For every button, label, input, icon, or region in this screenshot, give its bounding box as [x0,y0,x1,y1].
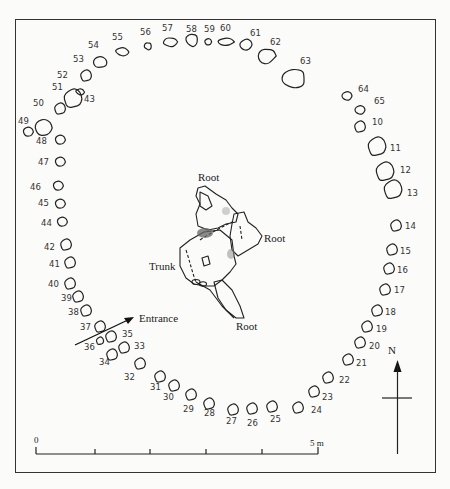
stone-label-48: 48 [36,136,47,146]
tree-trunk-feature [180,186,262,318]
stone-label-62: 62 [270,37,281,47]
stone-label-54: 54 [88,40,99,50]
stone-12 [376,162,394,181]
stone-label-47: 47 [38,157,49,167]
stone-label-56: 56 [140,27,151,37]
stone-25 [267,401,278,412]
stone-64 [342,92,352,101]
stone-label-10: 10 [372,117,383,127]
stone-label-31: 31 [150,382,161,392]
stone-label-27: 27 [226,416,237,426]
stone-label-60: 60 [220,23,231,33]
stone-37 [95,321,106,332]
stone-33 [119,342,130,353]
stone-label-20: 20 [369,341,380,351]
stone-52 [64,89,82,107]
shaded-area [222,207,230,215]
stone-label-65: 65 [374,96,385,106]
stone-13 [384,180,402,199]
stone-44 [57,217,67,226]
stone-62 [258,49,276,63]
stone-label-35: 35 [122,329,133,339]
stone-label-41: 41 [49,259,60,269]
stone-22 [323,372,334,383]
stone-59 [205,39,212,45]
stone-label-26: 26 [247,418,258,428]
stone-14 [391,220,402,231]
stone-35 [106,331,117,342]
stone-19 [362,321,373,332]
stone-27 [228,404,239,415]
stone-label-13: 13 [407,188,418,198]
stone-label-46: 46 [30,182,41,192]
stone-53 [81,70,92,81]
label-root-right: Root [264,232,285,244]
stone-54 [94,57,107,68]
stone-label-44: 44 [41,218,52,228]
stone-label-23: 23 [322,392,333,402]
stone-10 [355,121,366,132]
stone-48 [55,135,65,144]
stone-circle [23,34,401,415]
shaded-area [197,228,213,238]
stone-51 [55,103,66,114]
stone-label-51: 51 [52,82,63,92]
stone-36 [96,337,103,344]
stone-23 [309,386,320,397]
stone-20 [355,337,366,348]
stone-label-16: 16 [397,265,408,275]
stone-label-61: 61 [250,28,261,38]
label-entrance: Entrance [139,312,178,324]
stone-label-21: 21 [356,358,367,368]
site-plan: 5455565758596061626353525143504948474645… [0,0,450,489]
stone-50 [35,120,52,136]
stone-49 [23,127,33,136]
stone-label-18: 18 [385,307,396,317]
stone-label-25: 25 [270,414,281,424]
stone-label-17: 17 [394,285,405,295]
stone-65 [355,106,365,115]
stone-label-53: 53 [73,54,84,64]
stone-40 [65,278,76,289]
stone-label-64: 64 [358,84,369,94]
stone-label-28: 28 [204,408,215,418]
scale-bar [36,447,318,454]
stone-label-55: 55 [112,32,123,42]
stone-label-58: 58 [186,24,197,34]
stone-label-11: 11 [390,143,401,153]
stone-55 [116,48,129,56]
stone-label-40: 40 [48,279,59,289]
stone-label-19: 19 [376,324,387,334]
stone-61 [240,39,252,50]
stone-41 [65,257,76,268]
stone-label-34: 34 [99,357,110,367]
stone-label-38: 38 [68,307,79,317]
north-arrow: N [382,344,412,454]
stone-label-57: 57 [162,23,173,33]
stone-21 [343,354,354,365]
label-trunk: Trunk [149,260,176,272]
stone-number-labels: 5455565758596061626353525143504948474645… [18,23,418,428]
stone-24 [293,402,304,413]
stone-63 [282,70,304,88]
scale-start-label: 0 [34,435,39,445]
stone-32 [135,358,146,369]
scale-end-label: 5 m [310,438,324,448]
stone-45 [55,199,65,208]
stone-56 [144,43,151,50]
stone-30 [169,380,180,391]
stone-label-45: 45 [38,198,49,208]
stone-label-14: 14 [405,221,416,231]
stone-label-39: 39 [61,293,72,303]
stone-label-15: 15 [400,246,411,256]
stone-60 [218,38,234,45]
stone-label-12: 12 [400,165,411,175]
stone-label-43: 43 [84,94,95,104]
stone-label-29: 29 [183,404,194,414]
stone-label-37: 37 [80,322,91,332]
stone-11 [368,137,386,156]
stone-label-36: 36 [84,342,95,352]
stone-16 [384,263,395,274]
stone-47 [55,157,65,166]
label-root-top: Root [198,171,219,183]
